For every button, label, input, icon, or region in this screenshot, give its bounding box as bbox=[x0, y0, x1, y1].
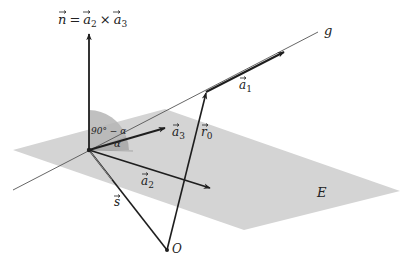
normal-vector-label: n=a2×a3 bbox=[58, 12, 127, 29]
s-label: s bbox=[114, 195, 120, 209]
origin-point bbox=[165, 248, 169, 252]
line-g-label: g bbox=[324, 23, 332, 38]
origin-label: O bbox=[172, 242, 182, 256]
a1-label: a1 bbox=[239, 78, 252, 94]
plane-foot-point bbox=[87, 148, 91, 152]
diagram-canvas: n=a2×a3 g a1 a3 r0 a2 s O E 90° − α α bbox=[0, 0, 414, 270]
angle-complement-label: 90° − α bbox=[91, 126, 126, 136]
plane-e-label: E bbox=[316, 185, 327, 200]
angle-alpha-label: α bbox=[114, 138, 121, 149]
